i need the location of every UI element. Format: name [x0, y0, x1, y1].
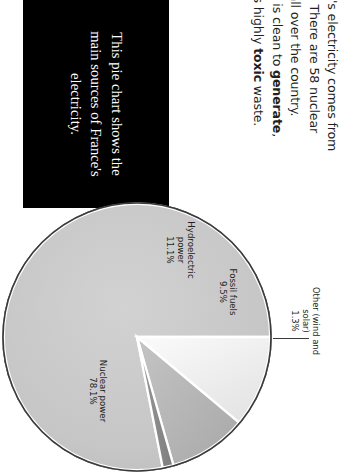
callout-box: This pie chart shows the main sources of…	[23, 0, 169, 208]
body-text-bold-generate: generate	[270, 70, 285, 133]
pie-label-nuclear-power: Nuclear power 78.1%	[87, 356, 108, 426]
pie-label-hydroelectric: Hydroelectric power 11.1%	[165, 219, 196, 281]
pie-chart	[1, 201, 273, 473]
body-paragraph: Most of France's electricity comes from …	[249, 0, 341, 156]
callout-text: This pie chart shows the main sources of…	[65, 20, 127, 188]
pie-chart-svg	[1, 201, 273, 473]
pie-label-fossil-fuels: Fossil fuels 9.5%	[217, 266, 238, 318]
pie-label-other: Other (wind and solar) 1.3%	[290, 282, 321, 360]
body-text-bold-toxic: toxic	[252, 48, 267, 82]
body-text-part3: waste.	[252, 82, 267, 126]
